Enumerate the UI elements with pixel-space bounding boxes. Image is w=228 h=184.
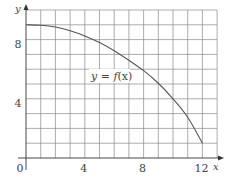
- y-tick-label: 4: [15, 97, 22, 110]
- axes: [18, 4, 224, 170]
- x-tick-labels: 04812: [17, 162, 209, 175]
- y-axis-label: y: [14, 3, 21, 14]
- x-tick-label: 0: [17, 162, 24, 175]
- x-tick-label: 4: [80, 162, 87, 175]
- curve-label: y = f(x): [89, 69, 132, 83]
- curve-label-text: y = f(x): [90, 70, 132, 83]
- x-tick-label: 8: [139, 162, 146, 175]
- y-tick-labels: 48: [15, 38, 22, 110]
- x-axis-label: x: [213, 161, 219, 172]
- x-axis-arrow-icon: [218, 156, 224, 161]
- y-axis-arrow-icon: [24, 4, 29, 10]
- grid: [26, 10, 217, 158]
- x-tick-label: 12: [194, 162, 208, 175]
- y-tick-label: 8: [15, 38, 22, 51]
- function-graph: y = f(x) y x 04812 48: [0, 0, 228, 184]
